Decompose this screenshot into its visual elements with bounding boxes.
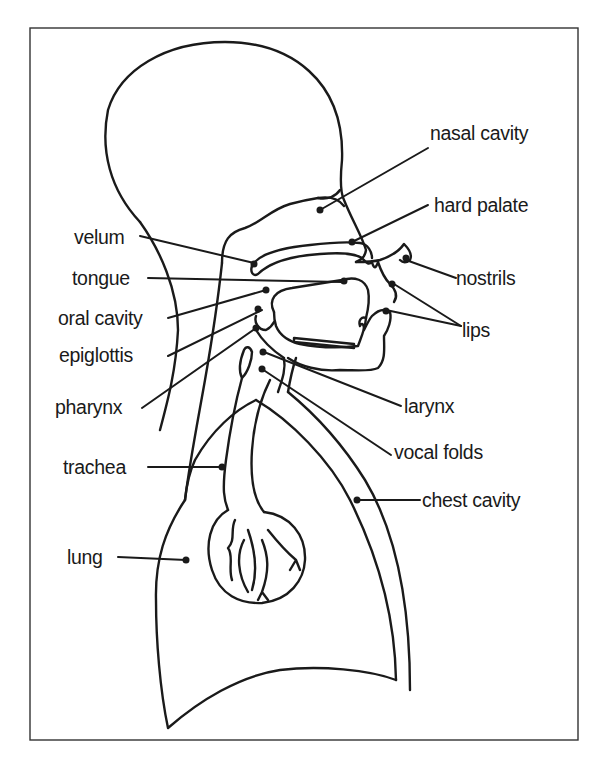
neck-back-outline — [140, 222, 178, 430]
label-lips: lips — [462, 319, 491, 341]
trachea-left — [224, 378, 242, 510]
larynx-front — [256, 330, 285, 392]
label-chest-cavity: chest cavity — [422, 489, 521, 511]
chest-outer-wall — [288, 392, 410, 690]
bronchi-branches — [228, 520, 300, 600]
epiglottis-flap — [240, 347, 252, 378]
lung-left-edge — [185, 400, 256, 500]
label-trachea: trachea — [63, 456, 126, 478]
label-pharynx: pharynx — [55, 396, 123, 418]
label-larynx: larynx — [404, 395, 455, 417]
label-velum: velum — [74, 226, 125, 248]
vocal-tract-diagram: nasal cavity hard palate velum tongue or… — [0, 0, 603, 764]
label-tongue: tongue — [72, 267, 130, 289]
jaw-outline — [274, 312, 366, 347]
label-nasal-cavity: nasal cavity — [430, 122, 529, 144]
pharynx-back-wall — [185, 263, 222, 500]
label-hard-palate: hard palate — [434, 194, 528, 216]
lower-lip-chin — [288, 312, 391, 371]
label-epiglottis: epiglottis — [59, 344, 134, 366]
leader-lines — [118, 148, 461, 560]
label-nostrils: nostrils — [456, 267, 516, 289]
label-vocal-folds: vocal folds — [394, 441, 483, 463]
label-oral-cavity: oral cavity — [58, 307, 143, 329]
label-lung: lung — [67, 546, 103, 568]
lung-outline — [156, 500, 396, 728]
tongue-outline — [272, 278, 369, 318]
velum-outline — [251, 253, 362, 275]
